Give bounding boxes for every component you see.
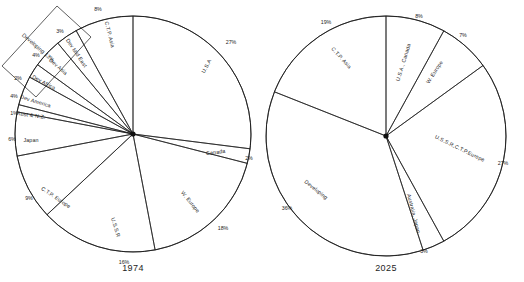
pie-slice-w-europe[interactable] [386, 31, 483, 136]
slice-percent-9: 4% [32, 52, 40, 58]
pie-slice-c-t-p-asia[interactable] [274, 16, 386, 136]
slice-label-1: W. Europe [425, 59, 444, 84]
slice-percent-10: 3% [56, 28, 64, 34]
slice-percent-0: 27% [226, 39, 237, 45]
slice-label-6: Aust & N.Z. [17, 110, 46, 120]
slice-percent-4: 36% [282, 205, 293, 211]
year-label-1974: 1974 [122, 263, 144, 273]
pie-1974: U.S.A27%Canada2%W. Europe18%U.S.S.R16%C.… [2, 6, 253, 273]
slice-label-0: U.S.A [200, 58, 212, 74]
slice-percent-2: 18% [218, 225, 229, 231]
slice-label-4: Developing [303, 178, 329, 200]
pie-slice-u-s-s-r[interactable] [47, 134, 155, 252]
developing-group-label: Developing 13% [21, 32, 56, 63]
pie-slice-c-t-p-asia[interactable] [76, 16, 133, 134]
slice-label-0: U.S.A., Canada [395, 43, 412, 82]
pie-slice-w-europe[interactable] [133, 134, 247, 250]
pie-slice-developing[interactable] [266, 92, 423, 256]
slice-percent-0: 8% [415, 13, 423, 19]
slice-label-3: U.S.S.R [110, 217, 122, 238]
pie-2025: U.S.A., Canada8%W. Europe7%U.S.S.R,C.T.P… [266, 13, 509, 273]
pie-slice-dev-america[interactable] [19, 77, 133, 134]
slice-label-5: C.T.P. Asia [330, 46, 352, 70]
chart-canvas: U.S.A27%Canada2%W. Europe18%U.S.S.R16%C.… [0, 0, 524, 282]
slice-percent-4: 9% [25, 195, 33, 201]
slice-percent-5: 19% [321, 19, 332, 25]
year-label-2025: 2025 [375, 263, 397, 273]
pie-slice-u-s-a[interactable] [133, 16, 251, 149]
pie-center-hub [130, 131, 135, 136]
pie-center-hub [383, 133, 388, 138]
pie-slice-australia-japan[interactable] [386, 136, 444, 250]
slice-label-11: C.T.P. Asia [104, 21, 116, 49]
slice-percent-7: 4% [10, 93, 18, 99]
slice-label-2: U.S.S.R,C.T.P.Europe [434, 134, 486, 163]
pie-chart-figure: U.S.A27%Canada2%W. Europe18%U.S.S.R16%C.… [0, 0, 524, 282]
slice-label-3: Australia, Japan [406, 193, 422, 234]
slice-percent-11: 8% [94, 6, 102, 12]
slice-percent-1: 7% [459, 32, 467, 38]
pie-slice-u-s-s-r-c-t-p-europe[interactable] [386, 65, 506, 241]
pie-slice-dev-africa[interactable] [30, 65, 133, 134]
slice-label-5: Japan [23, 137, 38, 143]
pie-slice-c-t-p-europe[interactable] [17, 134, 133, 215]
slice-label-2: W. Europe [180, 190, 201, 214]
